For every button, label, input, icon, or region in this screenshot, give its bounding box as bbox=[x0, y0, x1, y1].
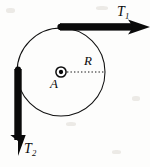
tension-arrow-t1 bbox=[57, 19, 150, 34]
label-t1-base: T bbox=[117, 4, 125, 19]
label-t1-subscript: 1 bbox=[125, 11, 129, 21]
label-tension-t1: T1 bbox=[117, 5, 129, 19]
figure-drawing bbox=[0, 0, 150, 167]
t2-shaft bbox=[14, 69, 21, 140]
t1-shaft bbox=[60, 23, 133, 30]
label-axis-point-a: A bbox=[50, 77, 58, 90]
label-t2-base: T bbox=[24, 141, 32, 156]
t2-attachment-point bbox=[15, 66, 21, 72]
t1-attachment-point bbox=[57, 24, 63, 30]
label-radius: R bbox=[84, 54, 92, 67]
axle-center-dot-icon bbox=[59, 70, 63, 74]
label-t2-subscript: 2 bbox=[32, 148, 36, 158]
figure-container: T1 T2 R A bbox=[0, 0, 150, 167]
label-tension-t2: T2 bbox=[24, 142, 36, 156]
